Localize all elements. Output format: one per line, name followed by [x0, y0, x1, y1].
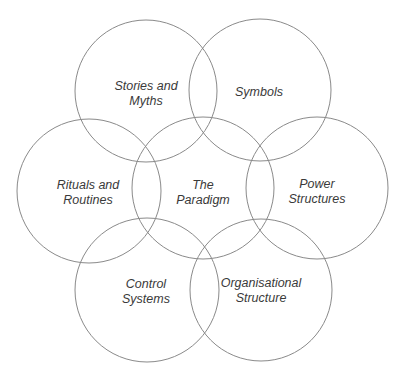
label-the-paradigm: The Paradigm	[143, 178, 263, 208]
cultural-web-diagram: Stories and Myths Symbols Rituals and Ro…	[0, 0, 407, 383]
label-power-structures: Power Structures	[257, 177, 377, 207]
label-line: Myths	[86, 94, 206, 109]
label-line: Symbols	[199, 85, 319, 100]
label-organisational-structure: Organisational Structure	[201, 276, 321, 306]
label-symbols: Symbols	[199, 85, 319, 100]
label-line: Paradigm	[143, 193, 263, 208]
label-line: Structures	[257, 192, 377, 207]
label-line: Power	[257, 177, 377, 192]
label-line: Stories and	[86, 79, 206, 94]
label-line: Routines	[28, 193, 148, 208]
label-line: Organisational	[201, 276, 321, 291]
label-line: Structure	[201, 291, 321, 306]
label-line: Control	[86, 277, 206, 292]
label-stories-and-myths: Stories and Myths	[86, 79, 206, 109]
label-rituals-and-routines: Rituals and Routines	[28, 178, 148, 208]
label-line: The	[143, 178, 263, 193]
label-control-systems: Control Systems	[86, 277, 206, 307]
label-line: Systems	[86, 292, 206, 307]
label-line: Rituals and	[28, 178, 148, 193]
